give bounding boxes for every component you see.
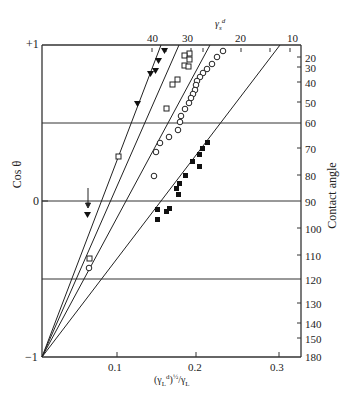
right-tick-180: 180: [305, 351, 322, 363]
y-tick-bottom: −1: [25, 350, 38, 365]
x-title-sub: L: [162, 380, 166, 388]
top-tick-40: 40: [147, 32, 158, 44]
top-title-sub: s: [219, 24, 222, 32]
right-tick-50: 50: [305, 97, 316, 109]
right-tick-110: 110: [305, 250, 321, 262]
right-tick-120: 120: [305, 274, 322, 286]
x-tick-0-1: 0.1: [108, 361, 122, 373]
y-tick-top: +1: [26, 37, 39, 52]
right-tick-130: 130: [305, 298, 322, 310]
right-tick-100: 100: [305, 223, 322, 235]
right-tick-70: 70: [305, 143, 316, 155]
series-open-circle: [86, 48, 226, 271]
series-filled-triangle: [84, 48, 168, 218]
y-axis-title: Cos θ: [10, 161, 25, 188]
x-tick-0-2: 0.2: [188, 361, 202, 373]
bottom-ticks: [117, 352, 279, 357]
arrow-annotation: [86, 188, 91, 208]
top-tick-30: 30: [182, 32, 193, 44]
right-tick-90: 90: [305, 196, 316, 208]
right-tick-150: 150: [305, 333, 322, 345]
top-tick-10: 10: [287, 32, 298, 44]
right-tick-30: 30: [305, 62, 316, 74]
right-tick-140: 140: [305, 318, 322, 330]
series-filled-square: [155, 140, 210, 222]
x-tick-0-3: 0.3: [270, 361, 284, 373]
chart-svg: [0, 0, 356, 403]
x-axis-title: (γLd)½/γL: [154, 373, 190, 388]
top-tick-20: 20: [235, 32, 246, 44]
top-axis-title: γsd: [215, 17, 225, 32]
x-title-tail-sub: L: [185, 380, 189, 388]
right-tick-60: 60: [305, 117, 316, 129]
right-tick-40: 40: [305, 77, 316, 89]
y-tick-zero: 0: [33, 194, 39, 209]
top-title-sup: d: [222, 17, 226, 25]
x-title-gamma: (γ: [154, 374, 162, 385]
right-tick-80: 80: [305, 170, 316, 182]
right-axis-title: Contact angle: [325, 162, 340, 228]
